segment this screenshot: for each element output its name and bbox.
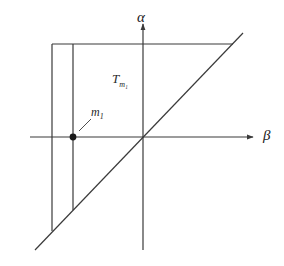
m1-point [70, 134, 77, 141]
figure-container: α β Tm₁ m1 [0, 0, 284, 266]
point-label-subscript: 1 [100, 112, 104, 121]
region-label-subscript: m₁ [119, 80, 128, 89]
beta-axis-label: β [263, 128, 270, 143]
m1-leader-line [79, 119, 91, 131]
point-label-base: m [91, 105, 100, 119]
alpha-axis-label: α [137, 10, 145, 25]
region-label-t-m1: Tm₁ [112, 72, 128, 89]
diagram-canvas [0, 0, 284, 266]
point-label-m1: m1 [91, 106, 104, 121]
identity-line [35, 33, 243, 250]
